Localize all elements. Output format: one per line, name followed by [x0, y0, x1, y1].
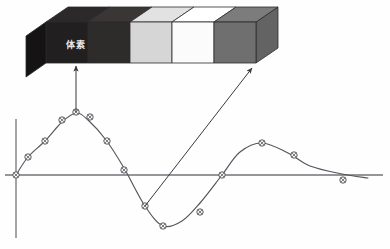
sample-point-8 — [121, 167, 127, 173]
waveform-curve — [16, 113, 368, 227]
sample-point-13 — [259, 140, 265, 146]
callout-arrow-trough — [145, 68, 252, 206]
sample-points-group — [13, 109, 346, 229]
sample-point-10 — [160, 223, 166, 229]
voxel-cell-4-front — [172, 22, 214, 63]
voxel-cell-5-front — [214, 22, 256, 63]
voxel-cell-3-front — [130, 22, 172, 63]
sample-point-6 — [87, 114, 93, 120]
figure-root: 体素 — [0, 0, 390, 249]
sample-point-4 — [59, 117, 65, 123]
sample-point-12 — [219, 172, 225, 178]
sample-point-11 — [197, 209, 203, 215]
sample-point-14 — [291, 152, 297, 158]
sample-point-1 — [13, 172, 19, 178]
sample-point-7 — [104, 138, 110, 144]
voxel-cell-2-front — [88, 22, 130, 63]
sample-point-3 — [42, 138, 48, 144]
diagram-canvas: 体素 — [0, 0, 390, 249]
voxel-strip — [26, 7, 278, 77]
axes-group — [5, 119, 383, 238]
voxel-label: 体素 — [66, 39, 85, 50]
sample-point-15 — [340, 177, 346, 183]
sample-point-2 — [25, 154, 31, 160]
waveform-group — [16, 113, 368, 227]
voxel-left-end-face — [26, 22, 46, 77]
